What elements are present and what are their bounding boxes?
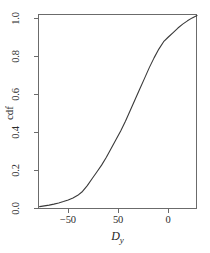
y-tick-label-1: 0.2 xyxy=(10,153,21,187)
x-tick-mark-2 xyxy=(118,209,119,213)
x-tick-mark-3 xyxy=(168,209,169,213)
y-tick-label-5: 1.0 xyxy=(10,1,21,35)
x-axis-title: Dy xyxy=(38,229,197,245)
x-axis-title-main: D xyxy=(111,229,120,243)
y-tick-mark-3 xyxy=(34,94,38,95)
cdf-curve xyxy=(38,14,197,209)
y-tick-label-4: 0.8 xyxy=(10,39,21,73)
x-tick-label-2: 50 xyxy=(98,214,138,225)
y-tick-mark-2 xyxy=(34,132,38,133)
y-tick-mark-5 xyxy=(34,18,38,19)
cdf-curve-path xyxy=(40,16,197,207)
y-tick-label-5-slot: 1.0 xyxy=(0,13,32,24)
y-tick-label-0: 0.0 xyxy=(10,191,21,225)
y-tick-label-4-slot: 0.8 xyxy=(0,51,32,62)
y-axis-title: cdf xyxy=(2,96,16,130)
x-tick-mark-1 xyxy=(68,209,69,213)
cdf-chart-figure: −50 50 0 0.0 0.2 0.4 0.6 0.8 1.0 Dy cdf xyxy=(0,0,210,253)
y-tick-label-1-slot: 0.2 xyxy=(0,165,32,176)
y-tick-mark-0 xyxy=(34,208,38,209)
x-axis-title-subscript: y xyxy=(120,235,124,245)
y-tick-mark-4 xyxy=(34,56,38,57)
y-tick-label-0-slot: 0.0 xyxy=(0,203,32,214)
y-axis-title-text: cdf xyxy=(3,96,15,130)
x-tick-label-1: −50 xyxy=(48,214,88,225)
x-tick-label-3: 0 xyxy=(148,214,188,225)
y-tick-mark-1 xyxy=(34,170,38,171)
